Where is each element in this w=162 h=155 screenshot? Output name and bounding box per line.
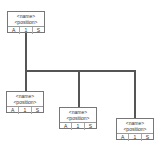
node-attributes-row: A 1 S [60, 123, 96, 130]
node-cell-3: S [32, 107, 43, 114]
node-cell-3: S [85, 123, 96, 130]
node-header: <name> <position> [117, 119, 153, 134]
root-trunk-line [25, 33, 27, 72]
org-node-child3[interactable]: <name> <position> A 1 S [116, 118, 154, 140]
node-cell-1: A [60, 123, 72, 130]
org-node-child2[interactable]: <name> <position> A 1 S [59, 107, 97, 129]
node-attributes-row: A 1 S [7, 107, 43, 114]
horizontal-bus-line [25, 70, 136, 72]
node-attributes-row: A 1 S [8, 27, 44, 34]
node-attributes-row: A 1 S [117, 134, 153, 141]
node-cell-2: 1 [20, 27, 32, 34]
node-position: <position> [123, 126, 146, 132]
drop-line-child2 [78, 70, 80, 107]
node-cell-2: 1 [19, 107, 31, 114]
node-cell-1: A [117, 134, 129, 141]
node-cell-1: A [7, 107, 19, 114]
node-cell-3: S [33, 27, 44, 34]
node-position: <position> [14, 19, 37, 25]
node-cell-3: S [142, 134, 153, 141]
drop-line-child3 [134, 70, 136, 118]
node-header: <name> <position> [7, 92, 43, 107]
node-cell-2: 1 [72, 123, 84, 130]
drop-line-child1 [25, 70, 27, 91]
node-cell-2: 1 [129, 134, 141, 141]
node-header: <name> <position> [60, 108, 96, 123]
node-position: <position> [66, 115, 89, 121]
org-node-root[interactable]: <name> <position> A 1 S [7, 11, 45, 33]
node-cell-1: A [8, 27, 20, 34]
node-header: <name> <position> [8, 12, 44, 27]
node-position: <position> [13, 99, 36, 105]
org-node-child1[interactable]: <name> <position> A 1 S [6, 91, 44, 113]
